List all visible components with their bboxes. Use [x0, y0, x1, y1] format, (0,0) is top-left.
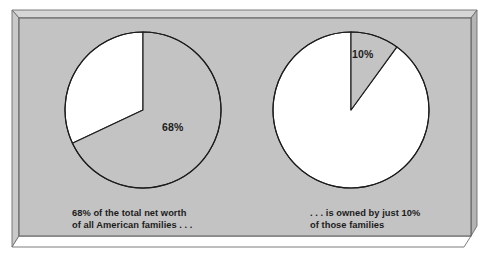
left-caption-line-2: of all American families . . .	[72, 219, 193, 231]
frame-left-bevel	[12, 10, 19, 247]
right-pie-value-label: 10%	[352, 48, 373, 60]
left-pie-caption: 68% of the total net worth of all Americ…	[72, 207, 193, 232]
frame-right-depth	[471, 10, 477, 236]
frame-bottom-depth	[12, 236, 471, 247]
right-pie-caption: . . . is owned by just 10% of those fami…	[310, 207, 420, 232]
frame-top-bevel	[12, 10, 477, 18]
left-caption-line-1: 68% of the total net worth	[72, 207, 193, 219]
left-pie-svg	[64, 31, 224, 191]
left-pie-chart	[64, 31, 224, 191]
right-caption-line-2: of those families	[310, 219, 420, 231]
left-pie-value-label: 68%	[162, 121, 183, 133]
right-caption-line-1: . . . is owned by just 10%	[310, 207, 420, 219]
figure-stage: 68% 68% of the total net worth of all Am…	[0, 0, 489, 258]
